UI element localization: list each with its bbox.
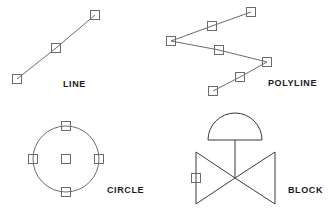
entity-circle[interactable] (29, 122, 104, 197)
entity-label-circle: CIRCLE (107, 186, 144, 195)
block-actuator-dome-icon (208, 113, 262, 140)
circle-grip-0[interactable] (62, 155, 71, 164)
polyline-geometry[interactable] (171, 12, 267, 91)
cad-vector-surface (0, 0, 328, 208)
entity-label-line: LINE (63, 80, 86, 89)
circle-geometry[interactable] (33, 126, 99, 192)
entity-line[interactable] (13, 11, 100, 84)
entity-label-polyline: POLYLINE (268, 79, 317, 88)
entity-polyline[interactable] (167, 8, 272, 96)
polyline-grip-group[interactable] (167, 8, 272, 96)
entity-label-block: BLOCK (288, 186, 323, 195)
line-geometry[interactable] (17, 15, 95, 79)
entity-block[interactable] (192, 113, 276, 204)
circle-grip-group[interactable] (29, 122, 104, 197)
cad-drawing-canvas: LINE POLYLINE CIRCLE BLOCK (0, 0, 328, 208)
